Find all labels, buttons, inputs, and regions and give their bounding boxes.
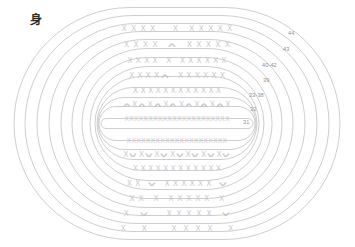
- stitch-single-crochet: X: [188, 57, 193, 65]
- stitch-single-crochet: X: [171, 165, 176, 173]
- stitch-blank: [161, 57, 163, 64]
- stitch-single-crochet: X: [196, 210, 201, 218]
- stitch-single-crochet: X: [135, 180, 140, 188]
- stitch-single-crochet: X: [146, 72, 151, 80]
- stitch-single-crochet: X: [180, 137, 184, 144]
- stitch-single-crochet: X: [186, 165, 191, 173]
- stitch-single-crochet: X: [190, 180, 195, 188]
- stitch-single-crochet: X: [199, 137, 203, 144]
- stitch-blank: [153, 210, 155, 217]
- stitch-single-crochet: X: [216, 41, 221, 49]
- stitch-single-crochet: X: [187, 41, 192, 49]
- stitch-single-crochet: X: [170, 137, 174, 144]
- stitch-single-crochet: X: [153, 115, 157, 122]
- stitch-single-crochet: X: [167, 210, 172, 218]
- stitch-single-crochet: X: [151, 137, 155, 144]
- stitch-single-crochet: X: [178, 87, 183, 95]
- stitch-single-crochet: X: [195, 195, 200, 203]
- stitch-single-crochet: X: [129, 115, 133, 122]
- stitch-single-crochet: X: [218, 25, 223, 33]
- stitch-single-crochet: X: [152, 57, 157, 65]
- stitch-single-crochet: X: [225, 41, 230, 49]
- stitch-single-crochet: X: [146, 137, 150, 144]
- stitch-single-crochet: X: [195, 225, 200, 233]
- stitch-single-crochet: X: [197, 57, 202, 65]
- stitch-single-crochet: X: [220, 72, 225, 80]
- stitch-single-crochet: X: [208, 137, 212, 144]
- stitch-single-crochet: X: [134, 41, 139, 49]
- stitch-single-crochet: X: [165, 137, 169, 144]
- stitch-single-crochet: X: [187, 72, 192, 80]
- stitch-single-crochet: X: [171, 87, 176, 95]
- stitch-single-crochet: X: [175, 137, 179, 144]
- stitch-single-crochet: X: [133, 87, 138, 95]
- stitch-single-crochet: X: [169, 195, 174, 203]
- stitch-blank: [219, 225, 221, 232]
- stitch-single-crochet: X: [201, 115, 205, 122]
- stitch-blank: [160, 210, 162, 217]
- stitch-single-crochet: X: [127, 180, 132, 188]
- stitch-single-crochet: X: [156, 137, 160, 144]
- stitch-single-crochet: X: [148, 165, 153, 173]
- chart-title-character: 身: [30, 14, 42, 26]
- stitch-single-crochet: X: [136, 137, 140, 144]
- stitch-single-crochet: X: [201, 165, 206, 173]
- stitch-single-crochet: X: [198, 180, 203, 188]
- stitch-single-crochet: X: [189, 137, 193, 144]
- stitch-single-crochet: X: [178, 72, 183, 80]
- stitch-single-crochet: X: [163, 115, 167, 122]
- stitch-single-crochet: X: [172, 225, 177, 233]
- stitch-single-crochet: X: [128, 57, 133, 65]
- stitch-single-crochet: X: [127, 137, 131, 144]
- stitch-single-crochet: X: [173, 25, 178, 33]
- stitch-single-crochet: X: [194, 137, 198, 144]
- round-label-40-42: 40-42: [262, 62, 277, 68]
- stitch-increase: ∨: [146, 181, 159, 187]
- stitch-single-crochet: X: [141, 165, 146, 173]
- stitch-blank: [163, 195, 165, 202]
- stitch-single-crochet: X: [220, 115, 224, 122]
- stitch-single-crochet: X: [163, 87, 168, 95]
- round-label-43: 43: [283, 46, 289, 52]
- stitch-single-crochet: X: [196, 115, 200, 122]
- stitch-blank: [216, 210, 218, 217]
- row-43: XXXX ∧ XXXXX: [102, 40, 252, 50]
- stitch-single-crochet: X: [150, 25, 155, 33]
- stitch-single-crochet: X: [165, 180, 170, 188]
- stitch-single-crochet: X: [141, 87, 146, 95]
- stitch-single-crochet: X: [124, 41, 129, 49]
- row-plain-a: XXXXXXXXXXXX: [100, 164, 254, 174]
- stitch-single-crochet: X: [203, 72, 208, 80]
- round-label-31: 31: [243, 119, 249, 125]
- stitch-single-crochet: X: [143, 41, 148, 49]
- stitch-single-crochet: X: [177, 210, 182, 218]
- stitch-decrease: ∧: [159, 73, 172, 79]
- stitch-single-crochet: X: [227, 25, 232, 33]
- stitch-single-crochet: X: [153, 41, 158, 49]
- stitch-single-crochet: X: [199, 25, 204, 33]
- stitch-single-crochet: X: [137, 72, 142, 80]
- stitch-single-crochet: X: [192, 115, 196, 122]
- stitch-blank: [134, 210, 136, 217]
- row-inc-b: XX ∨ XXXXXX ∨: [101, 179, 253, 189]
- stitch-single-crochet: X: [168, 115, 172, 122]
- stitch-single-crochet: X: [156, 165, 161, 173]
- stitch-blank: [154, 225, 156, 232]
- stitch-single-crochet: X: [124, 115, 128, 122]
- stitch-single-crochet: X: [226, 101, 231, 109]
- stitch-single-crochet: X: [204, 137, 208, 144]
- round-label-33-38: 33-38: [249, 92, 264, 98]
- stitch-blank: [213, 195, 215, 202]
- stitch-single-crochet: X: [213, 137, 217, 144]
- stitch-single-crochet: X: [144, 57, 149, 65]
- stitch-single-crochet: X: [182, 115, 186, 122]
- stitch-single-crochet: X: [141, 25, 146, 33]
- stitch-single-crochet: X: [154, 195, 159, 203]
- stitch-single-crochet: X: [141, 137, 145, 144]
- stitch-single-crochet: X: [218, 137, 222, 144]
- row-39: XXXX∧ XXXXXX: [101, 71, 253, 81]
- stitch-blank: [148, 195, 150, 202]
- stitch-single-crochet: X: [172, 115, 176, 122]
- stitch-single-crochet: X: [184, 225, 189, 233]
- stitch-blank: [163, 225, 165, 232]
